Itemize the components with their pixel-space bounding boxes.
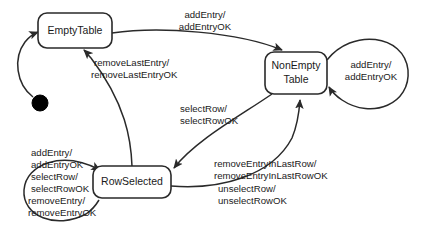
transition-label-empty-to-nonempty-line1: addEntry/ [184,9,225,20]
state-machine-diagram: EmptyTable NonEmpty Table RowSelected ad… [0,0,421,241]
transition-label-rowselected-self-loop: addEntry/ addEntryOK selectRow/ selectRo… [28,147,97,218]
transition-label-nonempty-self-loop-line2: addEntryOK [345,71,398,82]
state-non-empty-table-label-line2: Table [283,73,308,85]
transition-label-rowselected-to-empty-line1: removeLastEntry/ [94,57,170,68]
transition-label-empty-to-nonempty-line2: addEntryOK [179,21,232,32]
transition-label-rowselected-self-loop-line3: selectRow/ [31,171,78,182]
transition-label-rowselected-to-nonempty-line1: removeEntryInLastRow/ [214,158,317,169]
transition-label-rowselected-to-nonempty-line4: unselectRowOK [218,195,287,206]
state-non-empty-table-label-line1: NonEmpty [271,59,321,71]
transition-label-nonempty-to-rowselected-line1: selectRow/ [180,103,227,114]
transition-label-rowselected-self-loop-line1: addEntry/ [31,147,72,158]
transition-label-rowselected-to-empty: removeLastEntry/ removeLastEntryOK [91,57,178,80]
edge-empty-table-to-non-empty-table [112,30,282,50]
transition-label-rowselected-self-loop-line6: removeEntryOK [28,207,97,218]
transition-label-rowselected-to-nonempty-line3: unselectRow/ [218,183,276,194]
initial-pseudostate-node [32,95,48,111]
edge-initial-to-empty-table [18,32,38,97]
state-empty-table-label: EmptyTable [48,24,103,36]
transition-label-nonempty-self-loop-line1: addEntry/ [350,59,391,70]
transition-label-rowselected-to-empty-line2: removeLastEntryOK [91,69,178,80]
diagram-canvas: EmptyTable NonEmpty Table RowSelected ad… [0,0,421,241]
transition-label-rowselected-to-nonempty-line2: removeEntryInLastRowOK [214,170,328,181]
transition-label-nonempty-to-rowselected-line2: selectRowOK [180,115,239,126]
transition-label-nonempty-self-loop: addEntry/ addEntryOK [345,59,398,82]
transition-label-nonempty-to-rowselected: selectRow/ selectRowOK [180,103,239,126]
transition-label-rowselected-self-loop-line5: removeEntry/ [28,195,85,206]
state-row-selected-label: RowSelected [101,175,163,187]
transition-label-rowselected-self-loop-line2: addEntryOK [31,159,84,170]
transition-label-empty-to-nonempty: addEntry/ addEntryOK [179,9,232,32]
transition-label-rowselected-self-loop-line4: selectRowOK [31,183,90,194]
